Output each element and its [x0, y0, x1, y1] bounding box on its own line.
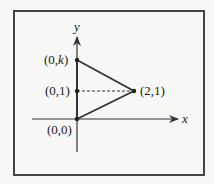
- y-axis-label: y: [72, 19, 80, 34]
- label-origin: (0,0): [47, 122, 72, 137]
- point-unit: [75, 89, 79, 93]
- point-top: [75, 58, 79, 62]
- edge-right-origin: [77, 91, 134, 119]
- diagram-frame: [14, 11, 204, 175]
- diagram-canvas: y x (0,k) (0,1) (2,1) (0,0): [0, 0, 214, 184]
- label-top: (0,k): [44, 52, 68, 67]
- label-right: (2,1): [140, 83, 165, 98]
- label-unit: (0,1): [45, 83, 70, 98]
- x-axis-label: x: [181, 111, 188, 126]
- point-origin: [75, 117, 79, 121]
- point-right: [132, 89, 136, 93]
- edge-top-right: [77, 60, 134, 91]
